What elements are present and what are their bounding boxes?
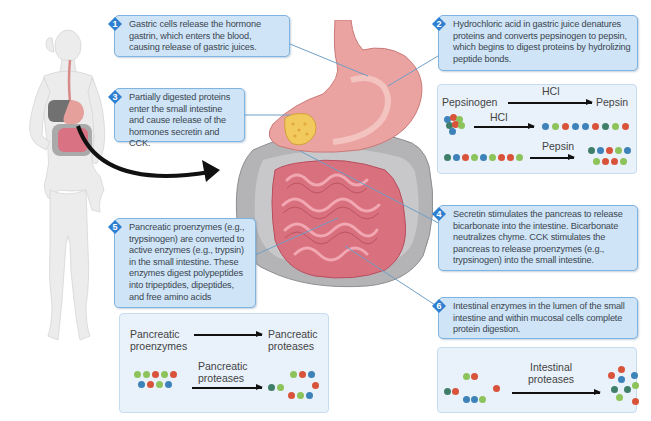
arrow-denature bbox=[474, 126, 534, 128]
callout-1: 1 Gastric cells release the hormone gast… bbox=[114, 15, 290, 57]
callout-1-text: Gastric cells release the hormone gastri… bbox=[129, 19, 261, 52]
callout-4: 4 Secretin stimulates the pancreas to re… bbox=[438, 205, 638, 271]
callout-5: 5 Pancreatic proenzymes (e.g., trypsinog… bbox=[114, 218, 256, 308]
hcl-label-1: HCl bbox=[542, 85, 560, 97]
hcl-label-2: HCl bbox=[490, 111, 508, 123]
step-badge-3: 3 bbox=[108, 90, 122, 104]
pepsin-panel: Pepsinogen HCl Pepsin HCl Pepsin bbox=[437, 84, 637, 174]
callout-6-text: Intestinal enzymes in the lumen of the s… bbox=[453, 301, 625, 334]
pancreatic-proteases-enzyme-label: Pancreatic proteases bbox=[198, 360, 248, 384]
pepsinogen-label: Pepsinogen bbox=[442, 96, 497, 108]
step-badge-1: 1 bbox=[108, 17, 122, 31]
step-badge-6: 6 bbox=[432, 299, 446, 313]
callout-4-text: Secretin stimulates the pancreas to rele… bbox=[453, 209, 623, 265]
callout-3: 3 Partially digested proteins enter the … bbox=[114, 88, 245, 142]
intestinal-proteases-label: Intestinal proteases bbox=[528, 361, 574, 385]
pancreatic-proteases-label: Pancreatic proteases bbox=[268, 328, 318, 352]
step-badge-5: 5 bbox=[108, 220, 122, 234]
pancreatic-proteases-panel: Pancreatic proenzymes Pancreatic proteas… bbox=[119, 313, 329, 413]
callout-5-text: Pancreatic proenzymes (e.g., trypsinogen… bbox=[129, 222, 244, 302]
callout-6: 6 Intestinal enzymes in the lumen of the… bbox=[438, 297, 638, 339]
callout-2-text: Hydrochloric acid in gastric juice denat… bbox=[453, 19, 630, 64]
arrow-activation bbox=[194, 334, 262, 336]
callout-3-text: Partially digested proteins enter the sm… bbox=[129, 92, 230, 148]
arrow-pepsinogen-to-pepsin bbox=[508, 102, 592, 104]
callout-2: 2 Hydrochloric acid in gastric juice den… bbox=[438, 15, 638, 71]
pancreatic-proenzymes-label: Pancreatic proenzymes bbox=[130, 328, 187, 352]
pepsin-enzyme-label: Pepsin bbox=[542, 140, 574, 152]
step-badge-2: 2 bbox=[432, 17, 446, 31]
intestinal-proteases-panel: Intestinal proteases bbox=[437, 347, 637, 413]
arrow-hydrolysis bbox=[530, 157, 574, 159]
arrow-final-digestion bbox=[512, 392, 600, 394]
pepsin-label: Pepsin bbox=[596, 96, 628, 108]
step-badge-4: 4 bbox=[432, 207, 446, 221]
arrow-digestion bbox=[192, 387, 262, 389]
